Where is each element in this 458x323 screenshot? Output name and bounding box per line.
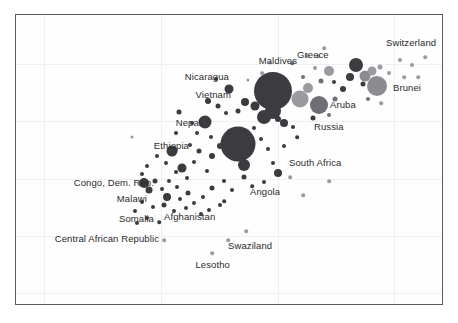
data-bubble[interactable]	[221, 127, 256, 162]
data-bubble[interactable]	[201, 195, 205, 199]
data-bubble[interactable]	[224, 111, 228, 115]
point-label: Swaziland	[228, 241, 272, 251]
point-label: Afghanistan	[164, 212, 215, 222]
point-label: Aruba	[330, 100, 356, 110]
data-bubble[interactable]	[266, 147, 270, 151]
point-label: Ethiopia	[154, 141, 189, 151]
point-label: Nepal	[176, 118, 201, 128]
data-bubble[interactable]	[361, 82, 366, 87]
data-bubble[interactable]	[162, 203, 167, 208]
data-bubble[interactable]	[378, 65, 383, 70]
data-bubble[interactable]	[217, 143, 223, 149]
data-bubble[interactable]	[185, 176, 189, 180]
data-bubble[interactable]	[178, 164, 187, 173]
data-bubble[interactable]	[251, 102, 260, 111]
data-bubble[interactable]	[174, 131, 178, 135]
data-bubble[interactable]	[164, 161, 168, 165]
data-bubble[interactable]	[238, 159, 250, 171]
data-bubble[interactable]	[292, 91, 309, 108]
data-bubble[interactable]	[157, 220, 161, 224]
data-bubble[interactable]	[402, 75, 406, 79]
data-bubble[interactable]	[178, 197, 182, 201]
data-bubble[interactable]	[167, 179, 171, 183]
data-bubble[interactable]	[288, 175, 292, 179]
data-bubble[interactable]	[346, 73, 354, 81]
data-bubble[interactable]	[210, 186, 215, 191]
data-bubble[interactable]	[366, 97, 370, 101]
data-bubble[interactable]	[184, 206, 188, 210]
data-bubble[interactable]	[236, 109, 241, 114]
data-bubble[interactable]	[175, 185, 179, 189]
data-bubble[interactable]	[151, 205, 155, 209]
data-bubble[interactable]	[410, 63, 414, 67]
data-bubble[interactable]	[319, 79, 324, 84]
data-bubble[interactable]	[209, 153, 215, 159]
point-label: Congo, Dem. Rep.	[74, 178, 154, 188]
data-bubble[interactable]	[244, 229, 248, 233]
data-bubble[interactable]	[192, 201, 196, 205]
data-bubble[interactable]	[416, 75, 420, 79]
point-label: Russia	[314, 122, 344, 132]
data-bubble[interactable]	[423, 55, 427, 59]
point-label: Maldives	[259, 56, 297, 66]
data-bubble[interactable]	[379, 101, 383, 105]
data-bubble[interactable]	[162, 238, 166, 242]
data-bubble[interactable]	[262, 180, 266, 184]
data-bubble[interactable]	[246, 78, 249, 81]
data-bubble[interactable]	[280, 119, 288, 127]
data-bubble[interactable]	[209, 135, 213, 139]
data-bubble[interactable]	[310, 96, 328, 114]
data-bubble[interactable]	[163, 193, 171, 201]
data-bubble[interactable]	[192, 160, 196, 164]
data-bubble[interactable]	[303, 83, 313, 93]
point-label: Vietnam	[196, 90, 231, 100]
data-bubble[interactable]	[260, 71, 264, 75]
data-bubble[interactable]	[230, 188, 234, 192]
data-bubble[interactable]	[367, 76, 387, 96]
data-bubble[interactable]	[177, 110, 182, 115]
data-bubble[interactable]	[291, 125, 295, 129]
data-bubble[interactable]	[340, 86, 346, 92]
data-bubble[interactable]	[216, 104, 221, 109]
data-bubble[interactable]	[252, 126, 256, 130]
data-bubble[interactable]	[205, 169, 209, 173]
gridline-vertical-3	[394, 15, 395, 304]
data-bubble[interactable]	[197, 149, 202, 154]
data-bubble[interactable]	[222, 199, 226, 203]
data-bubble[interactable]	[282, 144, 286, 148]
point-label: Angola	[250, 187, 280, 197]
data-bubble[interactable]	[301, 75, 305, 79]
data-bubble[interactable]	[368, 67, 377, 76]
point-label: Malawi	[117, 194, 147, 204]
data-bubble[interactable]	[186, 191, 191, 196]
data-bubble[interactable]	[295, 135, 299, 139]
data-bubble[interactable]	[145, 164, 149, 168]
data-bubble[interactable]	[160, 187, 164, 191]
data-bubble[interactable]	[257, 110, 271, 124]
data-bubble[interactable]	[387, 71, 391, 75]
data-bubble[interactable]	[271, 161, 275, 165]
data-bubble[interactable]	[222, 179, 226, 183]
data-bubble[interactable]	[311, 116, 316, 121]
data-bubble[interactable]	[210, 251, 214, 255]
data-bubble[interactable]	[332, 80, 336, 84]
data-bubble[interactable]	[398, 58, 402, 62]
data-bubble[interactable]	[195, 131, 199, 135]
data-bubble[interactable]	[242, 175, 247, 180]
data-bubble[interactable]	[274, 169, 282, 177]
data-bubble[interactable]	[130, 135, 133, 138]
data-bubble[interactable]	[140, 172, 144, 176]
data-bubble[interactable]	[275, 116, 281, 122]
data-bubble[interactable]	[259, 137, 263, 141]
point-label: Lesotho	[195, 260, 230, 270]
data-bubble[interactable]	[327, 113, 331, 117]
data-bubble[interactable]	[241, 98, 249, 106]
data-bubble[interactable]	[174, 170, 178, 174]
data-bubble[interactable]	[301, 193, 305, 197]
data-bubble[interactable]	[349, 58, 363, 72]
data-bubble[interactable]	[327, 179, 331, 183]
data-bubble[interactable]	[324, 66, 334, 76]
data-bubble[interactable]	[155, 154, 159, 158]
data-bubble[interactable]	[313, 66, 317, 70]
data-bubble[interactable]	[218, 203, 222, 207]
